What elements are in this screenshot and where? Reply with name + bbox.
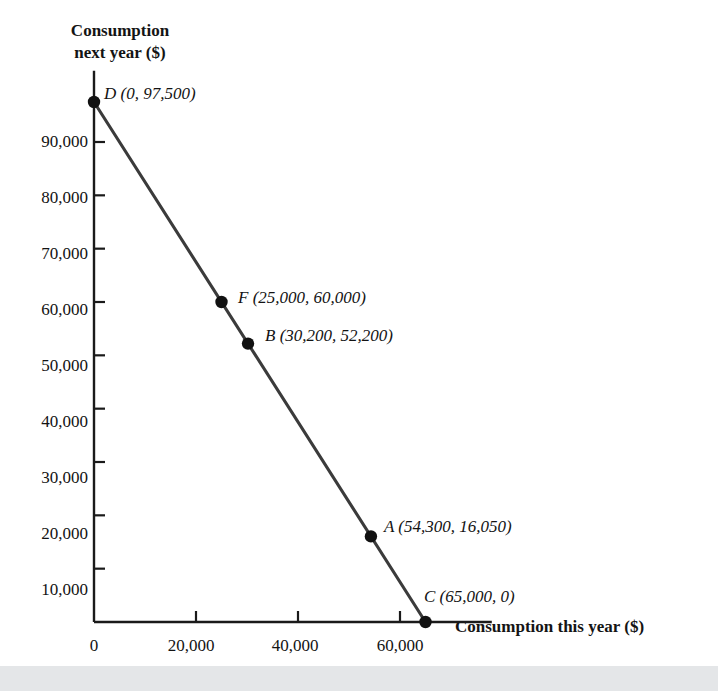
data-point-D [88,96,100,108]
plot-area [0,0,718,691]
budget-constraint-line [94,102,426,622]
data-point-A [365,530,377,542]
axis-ticks [94,142,400,622]
scan-bottom-strip [0,666,718,691]
budget-constraint-segment [94,102,426,622]
data-point-B [242,337,254,349]
axes [94,71,492,622]
data-point-C [419,616,431,628]
figure-canvas: the DBC. Consumption next year ($) Consu… [0,0,718,691]
data-point-F [215,296,227,308]
